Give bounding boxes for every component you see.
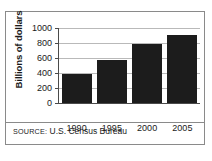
- bar: [132, 44, 162, 103]
- y-tick-mark: [55, 43, 59, 44]
- y-tick-mark: [55, 58, 59, 59]
- y-tick-label: 0: [47, 98, 52, 108]
- x-axis-line: [55, 103, 200, 104]
- source-note: SOURCE: U.S. Census Bureau: [13, 126, 127, 136]
- y-axis-line: [58, 28, 59, 103]
- chart-figure: Billions of dollars 02004006008001000 19…: [5, 11, 205, 145]
- y-tick-label: 800: [37, 38, 52, 48]
- source-divider: [6, 122, 204, 123]
- bar: [167, 35, 197, 103]
- x-tick-label: 2005: [160, 123, 204, 133]
- y-tick-label: 400: [37, 68, 52, 78]
- bar-chart: 02004006008001000 1990199520002005: [59, 28, 200, 103]
- bar: [97, 60, 127, 104]
- source-label: SOURCE:: [13, 127, 47, 136]
- gridline: [59, 28, 200, 29]
- y-tick-mark: [55, 88, 59, 89]
- chart-plot-area: Billions of dollars 02004006008001000 19…: [6, 12, 204, 122]
- source-value: U.S. Census Bureau: [50, 126, 127, 136]
- bar: [62, 74, 92, 103]
- y-tick-mark: [55, 103, 59, 104]
- y-tick-label: 1000: [32, 23, 52, 33]
- y-tick-mark: [55, 28, 59, 29]
- y-axis-title: Billions of dollars: [13, 8, 24, 92]
- y-tick-label: 600: [37, 53, 52, 63]
- y-tick-mark: [55, 73, 59, 74]
- y-tick-label: 200: [37, 83, 52, 93]
